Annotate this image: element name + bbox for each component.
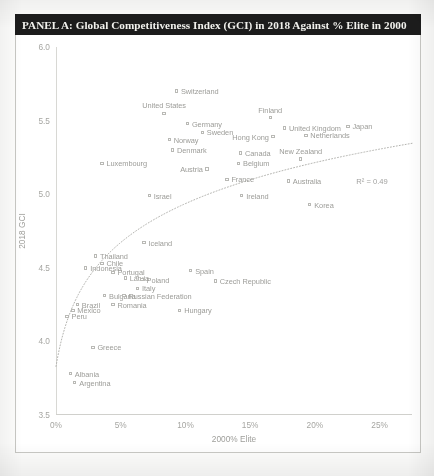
y-tick-label: 5.0 — [38, 189, 50, 199]
data-point-label: Russian Federation — [128, 291, 191, 300]
data-point-label: Greece — [97, 343, 121, 352]
data-point[interactable] — [308, 203, 311, 206]
data-point-label: Israel — [154, 191, 172, 200]
data-point[interactable] — [271, 135, 274, 138]
data-point-label: Sweden — [207, 128, 233, 137]
data-point-label: Germany — [192, 119, 222, 128]
data-point[interactable] — [205, 167, 208, 170]
y-axis-label: 2018 GCI — [17, 213, 27, 249]
x-axis-label: 2000% Elite — [212, 434, 256, 444]
x-tick-label: 15% — [242, 420, 259, 430]
x-tick-label: 25% — [371, 420, 388, 430]
x-tick-label: 5% — [115, 420, 127, 430]
data-point[interactable] — [103, 294, 106, 297]
data-point[interactable] — [201, 131, 204, 134]
data-point[interactable] — [225, 178, 228, 181]
data-point[interactable] — [162, 112, 165, 115]
data-point[interactable] — [171, 148, 174, 151]
data-point[interactable] — [148, 194, 151, 197]
data-point-label: Denmark — [177, 146, 207, 155]
data-point-label: Hong Kong — [232, 132, 269, 141]
trendline — [56, 47, 412, 415]
data-point[interactable] — [346, 125, 349, 128]
y-tick-label: 4.5 — [38, 263, 50, 273]
data-point[interactable] — [65, 315, 68, 318]
data-point[interactable] — [178, 309, 181, 312]
y-tick-label: 3.5 — [38, 410, 50, 420]
data-point[interactable] — [168, 138, 171, 141]
data-point-label: New Zealand — [279, 147, 322, 156]
data-point-label: Peru — [72, 312, 87, 321]
data-point[interactable] — [189, 269, 192, 272]
data-point[interactable] — [283, 126, 286, 129]
data-point[interactable] — [100, 162, 103, 165]
data-point[interactable] — [214, 279, 217, 282]
data-point[interactable] — [124, 276, 127, 279]
data-point-label: Japan — [352, 122, 372, 131]
data-point-label: Korea — [314, 200, 333, 209]
y-tick-label: 4.0 — [38, 336, 50, 346]
y-tick-label: 5.5 — [38, 116, 50, 126]
data-point-label: Albania — [75, 369, 99, 378]
data-point[interactable] — [299, 157, 302, 160]
data-point-label: Switzerland — [181, 87, 219, 96]
data-point[interactable] — [94, 254, 97, 257]
r-squared-annotation: R² = 0.49 — [356, 177, 387, 186]
data-point[interactable] — [186, 122, 189, 125]
data-point[interactable] — [84, 266, 87, 269]
panel-title-bar: PANEL A: Global Competitiveness Index (G… — [15, 14, 421, 35]
data-point-label: Norway — [174, 135, 199, 144]
page-title: PANEL A: Global Competitiveness Index (G… — [15, 19, 407, 31]
data-point-label: Hungary — [184, 306, 212, 315]
x-tick-label: 10% — [177, 420, 194, 430]
data-point-label: Australia — [293, 176, 321, 185]
data-point-label: Spain — [195, 266, 214, 275]
data-point[interactable] — [111, 271, 114, 274]
data-point[interactable] — [122, 294, 125, 297]
data-point[interactable] — [237, 162, 240, 165]
data-point[interactable] — [140, 278, 143, 281]
data-point-label: Finland — [258, 106, 282, 115]
data-point[interactable] — [304, 134, 307, 137]
data-point-label: Austria — [180, 165, 203, 174]
data-point[interactable] — [175, 89, 178, 92]
data-point-label: Argentina — [79, 378, 110, 387]
data-point[interactable] — [269, 116, 272, 119]
y-tick-label: 6.0 — [38, 42, 50, 52]
data-point[interactable] — [287, 179, 290, 182]
data-point-label: France — [231, 175, 254, 184]
data-point[interactable] — [91, 346, 94, 349]
data-point-label: Netherlands — [310, 131, 349, 140]
data-point-label: Luxembourg — [106, 159, 147, 168]
data-point-label: Poland — [147, 275, 170, 284]
data-point-label: Belgium — [243, 159, 269, 168]
data-point-label: Czech Republic — [220, 277, 271, 286]
data-point[interactable] — [111, 303, 114, 306]
scatter-plot-area: 3.54.04.55.05.56.0 0%5%10%15%20%25% Swit… — [56, 47, 412, 415]
scanned-page: PANEL A: Global Competitiveness Index (G… — [0, 0, 434, 476]
data-point-label: Romania — [117, 300, 146, 309]
data-point-label: Ireland — [246, 191, 268, 200]
data-point[interactable] — [73, 381, 76, 384]
data-point-label: United States — [142, 101, 186, 110]
data-point[interactable] — [136, 287, 139, 290]
data-point-label: Canada — [245, 148, 271, 157]
data-point[interactable] — [239, 151, 242, 154]
x-tick-label: 0% — [50, 420, 62, 430]
data-point[interactable] — [142, 241, 145, 244]
data-point[interactable] — [69, 372, 72, 375]
x-tick-label: 20% — [307, 420, 324, 430]
data-point[interactable] — [240, 194, 243, 197]
data-point-label: Iceland — [149, 238, 172, 247]
